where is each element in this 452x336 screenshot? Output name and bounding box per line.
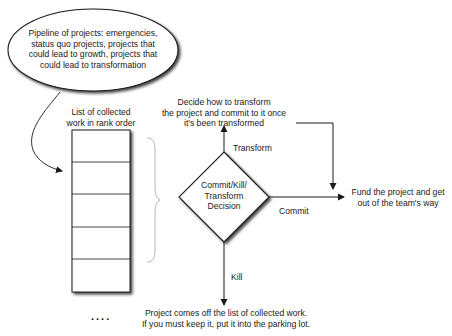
kill-outcome-text: Project comes off the list of collected … bbox=[136, 308, 316, 329]
transform-outcome-text: Decide how to transform the project and … bbox=[157, 97, 291, 129]
commit-edge-label: Commit bbox=[279, 206, 309, 216]
pipeline-bubble-text: Pipeline of projects: emergencies, statu… bbox=[18, 28, 168, 70]
decision-diamond-text: Commit/Kill/ Transform Decision bbox=[184, 180, 264, 212]
bubble-to-list-connector bbox=[32, 92, 62, 171]
ranked-list-box bbox=[72, 130, 130, 292]
list-continuation-dots: .... bbox=[91, 311, 111, 321]
transform-to-fund-connector bbox=[296, 123, 333, 189]
transform-edge-label: Transform bbox=[233, 143, 272, 153]
kill-edge-label: Kill bbox=[231, 272, 242, 282]
commit-outcome-text: Fund the project and get out of the team… bbox=[344, 187, 452, 208]
brace-icon bbox=[147, 138, 160, 262]
list-caption: List of collected work in rank order bbox=[55, 107, 147, 128]
